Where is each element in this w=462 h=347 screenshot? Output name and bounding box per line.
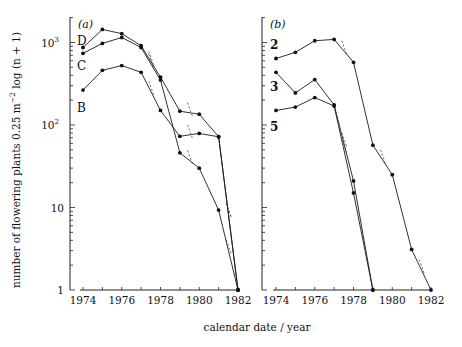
data-point [332,104,336,108]
data-point [274,57,278,61]
x-tick-label: 1978 [340,294,367,306]
data-point [371,288,375,292]
series-line-2 [276,39,431,290]
data-point [274,109,278,113]
series-tag-5: 5 [270,120,278,134]
data-point [274,70,278,74]
trend-mark [149,54,154,68]
y-tick-label: 10 [51,202,64,214]
series-line-D [83,29,238,290]
trend-mark [188,103,193,117]
x-tick-label: 1976 [301,294,328,306]
data-point [178,109,182,113]
trend-mark [188,125,193,139]
data-point [236,288,240,292]
data-point [371,143,375,147]
data-point [120,36,124,40]
x-tick-label: 1982 [225,294,252,306]
data-point [197,132,201,136]
series-tag-C: C [77,59,86,73]
y-axis-label: number of flowering plants 0.25 m−2 log … [8,32,22,288]
series-tag-B: B [77,101,86,115]
trend-mark [188,150,193,164]
data-point [120,64,124,68]
data-point [313,39,317,43]
data-point [197,166,201,170]
trend-mark [342,41,347,55]
data-point [293,50,297,54]
x-tick-label: 1978 [147,294,174,306]
data-point [313,96,317,100]
data-point [159,109,163,113]
panel-a: 19741976197819801982110102103(a)DCB [41,17,251,306]
data-point [100,42,104,46]
data-point [139,46,143,50]
data-point [81,51,85,55]
x-axis-label: calendar date / year [204,321,312,333]
data-point [293,105,297,109]
panel-tag: (b) [270,18,286,31]
series-tag-2: 2 [270,38,278,52]
data-point [120,32,124,36]
data-point [100,68,104,72]
data-point [352,179,356,183]
series-tag-3: 3 [270,80,278,94]
data-point [217,135,221,139]
data-point [100,28,104,32]
data-point [293,91,297,95]
x-tick-label: 1982 [418,294,445,306]
data-point [217,208,221,212]
data-point [178,134,182,138]
data-point [313,78,317,82]
x-tick-label: 1974 [70,294,97,306]
trend-mark [381,150,386,164]
series-line-5 [276,98,373,290]
y-tick-label: 102 [41,118,59,131]
data-point [197,112,201,116]
series-tag-D: D [77,34,87,48]
trend-mark [149,51,154,65]
data-point [390,173,394,177]
data-point [429,288,433,292]
y-axis-label-text: number of flowering plants 0.25 m−2 log … [8,32,22,288]
y-tick-label: 1 [57,284,64,296]
series-line-3 [276,72,373,290]
data-point [81,88,85,92]
x-tick-label: 1976 [108,294,135,306]
data-point [410,248,414,252]
series-line-B [83,66,238,290]
x-tick-label: 1974 [263,294,290,306]
panel-tag: (a) [78,18,93,31]
chart-figure: number of flowering plants 0.25 m−2 log … [0,0,462,347]
data-point [352,60,356,64]
panel-b: 19741976197819801982(b)235 [262,17,444,306]
data-point [332,38,336,42]
data-point [139,70,143,74]
x-tick-label: 1980 [186,294,213,306]
data-point [159,78,163,82]
data-point [352,191,356,195]
x-tick-label: 1980 [379,294,406,306]
y-tick-label: 103 [41,36,59,49]
data-point [178,151,182,155]
